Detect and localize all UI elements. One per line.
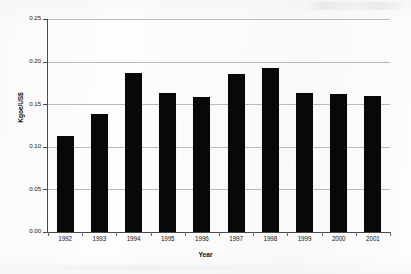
bar-chart-figure: Kgoe/US$ 0.000.050.100.150.200.25 199219… (0, 0, 411, 274)
y-axis-tick-label-text: 0.25 (15, 15, 41, 21)
y-axis-tick-label: 0.00 (10, 228, 41, 236)
bar-1995 (159, 93, 176, 232)
y-axis-tick-label-text: 0.05 (15, 186, 41, 192)
y-axis-tick-label-text: 0.10 (15, 143, 41, 149)
x-axis-tick (48, 232, 49, 236)
y-axis-tick-label: 0.20 (10, 58, 41, 66)
scan-artifact-top-right (306, 2, 406, 10)
y-axis-tick-label: 0.15 (10, 101, 41, 109)
bar-1993 (91, 114, 108, 232)
y-axis-tick-label-text: 0.15 (15, 101, 41, 107)
bar-1992 (57, 136, 74, 232)
x-axis-title: Year (0, 251, 411, 258)
y-axis-tick-label: 0.05 (10, 186, 41, 194)
gridline (48, 62, 390, 63)
scan-artifact-bottom (10, 265, 310, 271)
bar-2001 (364, 96, 381, 232)
bar-1998 (262, 68, 279, 232)
y-axis-tick-label: 0.25 (10, 15, 41, 23)
bar-1994 (125, 73, 142, 232)
bar-1996 (193, 97, 210, 232)
bar-1997 (228, 74, 245, 232)
plot-area (48, 19, 390, 232)
y-axis-tick-label-text: 0.20 (15, 58, 41, 64)
gridline (48, 19, 390, 20)
bar-2000 (330, 94, 347, 232)
y-axis-tick-label: 0.10 (10, 143, 41, 151)
bar-1999 (296, 93, 313, 232)
x-axis-tick-label-2001: 2001 (353, 236, 393, 242)
y-axis-tick-label-text: 0.00 (15, 228, 41, 234)
